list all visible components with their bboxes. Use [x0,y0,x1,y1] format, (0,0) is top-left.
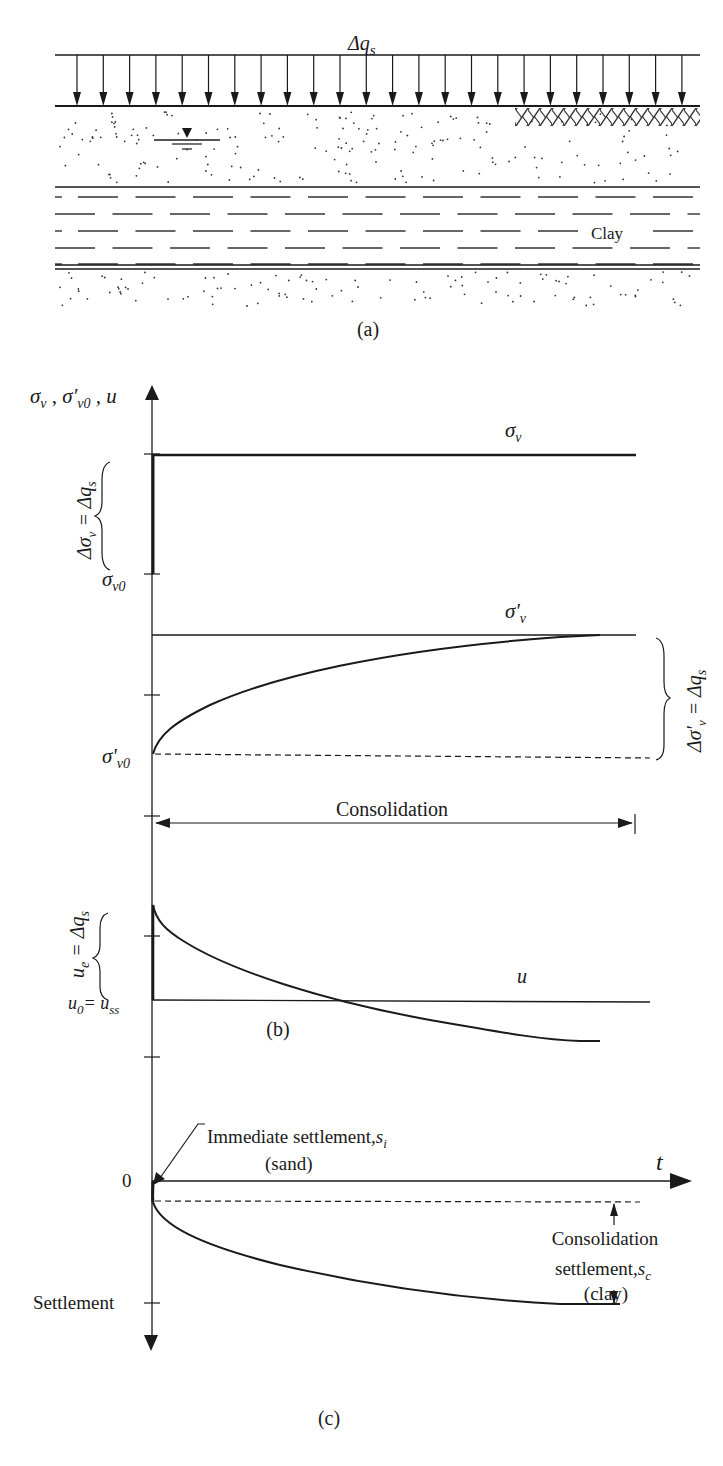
sigma-v0-eff-dashed-line [155,754,650,758]
immediate-sand-label: (sand) [265,1153,312,1175]
u0-baseline [152,1000,650,1002]
delta-sigma-v-brace [95,462,110,570]
delta-sigma-v-eff-label: Δσ′ν = Δqs [683,669,709,753]
consolidation-settlement-label-2: settlement,sc [555,1258,651,1283]
settlement-label: Settlement [33,1292,115,1313]
consolidation-diagram: Δqs Clay (a) σν , σ′ν0 , u [0,0,723,1466]
panel-c-settlement-plot: 0 t Settlement Immediate settlement,si (… [33,1124,692,1430]
load-arrows [73,55,686,106]
consolidation-settlement-label-1: Consolidation [552,1228,659,1249]
sigma-v-eff-label: σ'v [505,599,527,626]
panel-a-soil-profile: Δqs Clay (a) [55,32,700,341]
consolidation-label: Consolidation [336,798,448,820]
sigma-v-label: σv [505,418,522,445]
load-label: Δqs [347,32,376,58]
delta-sigma-v-label: Δσν = Δqs [73,481,99,560]
caption-c: (c) [318,1407,340,1430]
pore-pressure-curve [153,905,600,1041]
zero-label: 0 [122,1170,132,1191]
fill-hatch-patch [515,108,700,126]
immediate-settlement-dashed-line [155,1201,640,1202]
y-axis-arrow-up-icon [145,385,159,400]
y-axis-label: σν , σ′ν0 , u [30,384,117,411]
sigma-v-eff-curve [153,635,600,754]
arrow-right-icon [618,818,633,828]
water-table-icon [154,128,220,149]
u0-label: u0= uss [68,993,119,1017]
immediate-settlement-label: Immediate settlement,si [207,1126,387,1151]
sigma-v0-eff-label: σ'v0 [102,744,130,771]
t-label: t [656,1149,664,1175]
caption-b: (b) [266,1018,289,1041]
sand-layer-bottom [59,271,690,307]
panel-b-stress-plot: σν , σ′ν0 , u σv Δσν = Δqs σv0 σ'v σ'v0 … [30,384,709,1340]
delta-sigma-v-eff-brace [656,638,670,760]
caption-a: (a) [357,318,379,341]
clay-label: Clay [591,224,624,243]
u-label: u [517,965,527,987]
settlement-curve [153,1202,620,1304]
sigma-v0-label: σv0 [102,567,126,594]
ue-label: ue = Δqs [66,911,92,978]
time-axis-arrow-icon [670,1173,692,1189]
sc-arrow-up-icon [610,1203,618,1216]
consolidation-clay-label: (clay) [584,1283,628,1305]
settlement-axis-arrow-icon [144,1335,158,1351]
arrow-left-icon [155,818,170,828]
immediate-leader-line [160,1124,205,1178]
ue-brace [93,913,108,1000]
